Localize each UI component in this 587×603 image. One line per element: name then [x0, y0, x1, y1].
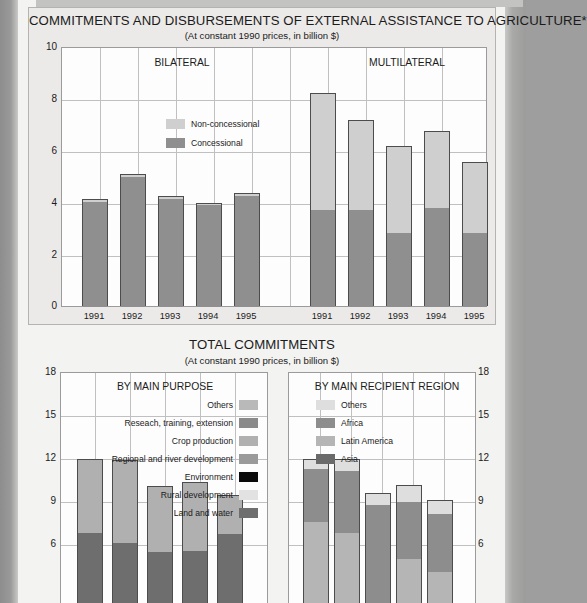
legend-label-others-region: Others: [341, 400, 367, 410]
bar-segment-concessional: [463, 233, 487, 307]
legend-item-regional-and-river-development: Regional and river development: [68, 453, 258, 464]
legend-item-concessional: Concessional: [166, 137, 243, 148]
bar-segment-land-and-water: [183, 551, 207, 603]
bar-segment-africa: [335, 471, 359, 533]
x-label-bilateral-1993: 1993: [157, 311, 183, 321]
legend-item-latin-america: Latin America: [316, 435, 393, 446]
bar-bilateral-1993: [158, 196, 184, 306]
bar-purpose-1993: [147, 486, 173, 603]
bar-segment-concessional: [425, 208, 449, 307]
legend-label-asia: Asia: [341, 454, 358, 464]
legend-swatch-land-and-water: [239, 508, 258, 518]
bar-multilateral-1994: [424, 131, 450, 306]
legend-item-crop-production: Crop production: [68, 435, 258, 446]
legend-label-regional-and-river-development: Regional and river development: [112, 454, 233, 464]
gridline-v-6: [290, 48, 291, 306]
bar-region-1993: [365, 493, 391, 603]
top-y-tick-6: 6: [35, 145, 57, 156]
legend-swatch-africa: [316, 418, 335, 428]
bar-segment-africa: [428, 514, 452, 572]
legend-label-research-training-extension: Reseach, training, extension: [125, 418, 233, 428]
legend-label-non-concessional: Non-concessional: [191, 119, 259, 129]
legend-item-land-and-water: Land and water: [68, 507, 258, 518]
bar-segment-concessional: [311, 210, 335, 307]
bar-segment-latin-america: [335, 533, 359, 603]
legend-swatch-non-concessional: [166, 119, 185, 129]
top-y-tick-2: 2: [35, 249, 57, 260]
bar-multilateral-1992: [348, 120, 374, 306]
legend-swatch-asia: [316, 454, 335, 464]
legend-swatch-crop-production: [239, 436, 258, 446]
x-label-multilateral-1994: 1994: [423, 311, 449, 321]
bar-segment-land-and-water: [218, 534, 242, 603]
bottom-right-y-tick-6: 6: [478, 538, 500, 549]
bar-segment-concessional: [83, 202, 107, 307]
legend-label-concessional: Concessional: [191, 138, 243, 148]
bar-segment-land-and-water: [148, 552, 172, 603]
bar-segment-concessional: [235, 196, 259, 307]
page-right-edge-strip: [505, 0, 526, 603]
bar-bilateral-1992: [120, 174, 146, 306]
legend-swatch-latin-america: [316, 436, 335, 446]
bar-multilateral-1991: [310, 93, 336, 306]
legend-swatch-research-training-extension: [239, 418, 258, 428]
bottom-left-y-tick-6: 6: [34, 538, 56, 549]
legend-label-environment: Environment: [185, 472, 233, 482]
bar-multilateral-1993: [386, 146, 412, 306]
legend-label-land-and-water: Land and water: [174, 508, 233, 518]
bottom-chart-subtitle: (At constant 1990 prices, in billion $): [28, 355, 496, 366]
top-chart-plot-area: BILATERAL MULTILATERAL Non-concessional …: [61, 47, 487, 307]
bottom-right-y-tick-18: 18: [478, 366, 500, 377]
multilateral-section-header: MULTILATERAL: [327, 57, 487, 68]
top-y-tick-8: 8: [35, 93, 57, 104]
bar-segment-africa: [397, 502, 421, 559]
legend-swatch-others-purpose: [239, 400, 258, 410]
bottom-left-y-tick-15: 15: [34, 409, 56, 420]
bar-segment-non-concessional: [311, 94, 335, 210]
bottom-right-y-tick-12: 12: [478, 452, 500, 463]
bottom-right-y-tick-9: 9: [478, 495, 500, 506]
bar-multilateral-1995: [462, 162, 488, 306]
top-chart-subtitle: (At constant 1990 prices, in billion $): [29, 30, 495, 41]
x-label-bilateral-1995: 1995: [233, 311, 259, 321]
bar-segment-concessional: [387, 233, 411, 307]
bar-segment-others-region: [428, 501, 452, 514]
bottom-right-y-tick-15: 15: [478, 409, 500, 420]
gridline-h-8: [62, 100, 486, 101]
x-label-bilateral-1994: 1994: [195, 311, 221, 321]
bilateral-section-header: BILATERAL: [102, 57, 262, 68]
bar-segment-others-region: [397, 486, 421, 502]
legend-swatch-concessional: [166, 138, 185, 148]
top-y-tick-0: 0: [35, 300, 57, 311]
bar-segment-concessional: [121, 177, 145, 307]
x-label-multilateral-1993: 1993: [385, 311, 411, 321]
legend-item-others-purpose: Others: [68, 399, 258, 410]
bottom-chart-title: TOTAL COMMITMENTS: [28, 337, 496, 352]
x-label-multilateral-1992: 1992: [347, 311, 373, 321]
bar-segment-africa: [304, 469, 328, 522]
legend-label-latin-america: Latin America: [341, 436, 393, 446]
bar-segment-non-concessional: [463, 163, 487, 233]
legend-label-africa: Africa: [341, 418, 363, 428]
bar-region-1992: [334, 459, 360, 603]
bar-segment-latin-america: [428, 572, 452, 603]
x-label-multilateral-1995: 1995: [461, 311, 487, 321]
legend-item-rural-development: Rural development: [68, 489, 258, 500]
legend-item-research-training-extension: Reseach, training, extension: [68, 417, 258, 428]
bar-segment-non-concessional: [387, 147, 411, 233]
bar-segment-africa: [366, 505, 390, 603]
bar-bilateral-1991: [82, 199, 108, 306]
bottom-left-y-tick-18: 18: [34, 366, 56, 377]
legend-swatch-regional-and-river-development: [239, 454, 258, 464]
top-chart-panel: COMMITMENTS AND DISBURSEMENTS OF EXTERNA…: [28, 7, 496, 325]
bar-segment-land-and-water: [78, 533, 102, 603]
bottom-left-y-tick-12: 12: [34, 452, 56, 463]
x-label-bilateral-1991: 1991: [81, 311, 107, 321]
bar-region-1995: [427, 500, 453, 603]
legend-item-africa: Africa: [316, 417, 363, 428]
top-y-tick-10: 10: [35, 41, 57, 52]
top-chart-title: COMMITMENTS AND DISBURSEMENTS OF EXTERNA…: [29, 13, 495, 28]
bar-segment-concessional: [159, 199, 183, 307]
x-label-multilateral-1991: 1991: [309, 311, 335, 321]
legend-label-crop-production: Crop production: [172, 436, 233, 446]
